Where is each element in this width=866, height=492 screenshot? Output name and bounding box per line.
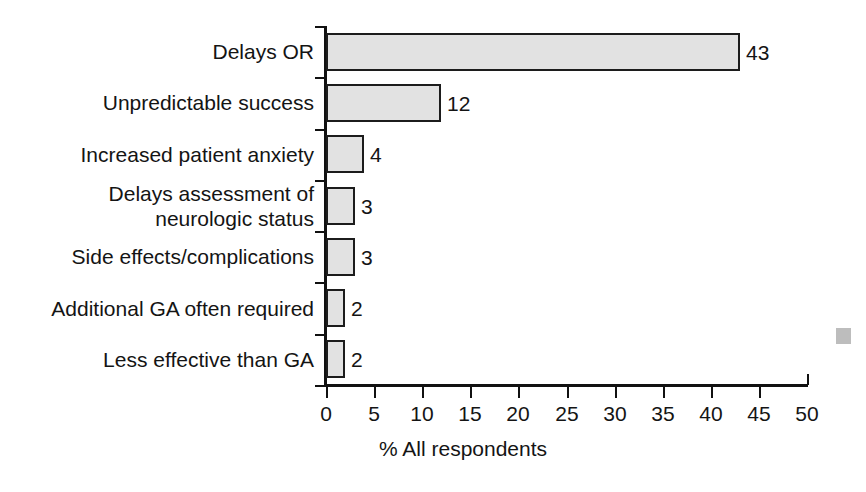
- category-label-line: Delays OR: [212, 39, 314, 64]
- y-axis-tick: [315, 26, 324, 28]
- y-axis-tick: [315, 129, 324, 131]
- plot-area: Delays ORUnpredictable successIncreased …: [0, 0, 866, 492]
- bar-value-label: 2: [351, 298, 363, 319]
- category-label: Unpredictable success: [103, 90, 314, 115]
- x-axis-line: [324, 384, 808, 387]
- x-axis-tick: [470, 387, 472, 398]
- x-axis-tick-label: 50: [787, 403, 827, 424]
- bar-value-label: 2: [351, 349, 363, 370]
- x-axis-tick: [567, 387, 569, 398]
- bar: [326, 238, 355, 276]
- x-axis-tick: [711, 387, 713, 398]
- x-axis-title: % All respondents: [0, 437, 866, 461]
- bar: [326, 84, 441, 122]
- x-axis-tick-label: 25: [547, 403, 587, 424]
- x-axis-tick-label: 35: [643, 403, 683, 424]
- x-axis-tick-label: 15: [450, 403, 490, 424]
- bar-value-label: 12: [447, 93, 470, 114]
- y-axis-tick: [315, 180, 324, 182]
- x-axis-tick: [422, 387, 424, 398]
- category-label-line: Delays assessment of: [109, 181, 314, 206]
- bar-value-label: 4: [370, 144, 382, 165]
- y-axis-tick: [315, 77, 324, 79]
- y-axis-tick: [315, 385, 324, 387]
- x-axis-tick: [518, 387, 520, 398]
- x-axis-tick-label: 0: [306, 403, 346, 424]
- x-axis-tick-label: 30: [595, 403, 635, 424]
- category-label: Additional GA often required: [51, 296, 314, 321]
- category-label-line: Less effective than GA: [103, 347, 314, 372]
- bar-chart: Delays ORUnpredictable successIncreased …: [0, 0, 866, 492]
- bar-value-label: 3: [361, 247, 373, 268]
- bar: [326, 33, 740, 71]
- x-axis-tick-label: 10: [402, 403, 442, 424]
- bar: [326, 187, 355, 225]
- y-axis-tick: [315, 334, 324, 336]
- x-axis-tick: [807, 374, 809, 385]
- x-axis-tick-label: 20: [498, 403, 538, 424]
- category-label-line: Additional GA often required: [51, 296, 314, 321]
- x-axis-tick-label: 45: [739, 403, 779, 424]
- x-axis-tick: [615, 387, 617, 398]
- x-axis-tick: [326, 387, 328, 398]
- x-axis-tick-label: 5: [354, 403, 394, 424]
- bar-value-label: 3: [361, 196, 373, 217]
- category-label: Side effects/complications: [72, 244, 314, 269]
- category-label: Delays assessment ofneurologic status: [109, 181, 314, 231]
- x-axis-tick: [663, 387, 665, 398]
- x-axis-tick: [759, 387, 761, 398]
- category-label: Delays OR: [212, 39, 314, 64]
- category-label-line: Increased patient anxiety: [81, 142, 314, 167]
- category-label: Increased patient anxiety: [81, 142, 314, 167]
- bar: [326, 340, 345, 378]
- y-axis-tick: [315, 282, 324, 284]
- bar: [326, 289, 345, 327]
- category-label-line: Side effects/complications: [72, 244, 314, 269]
- x-axis-tick: [374, 387, 376, 398]
- x-axis-title-text: % All respondents: [379, 437, 547, 461]
- category-label: Less effective than GA: [103, 347, 314, 372]
- category-label-line: Unpredictable success: [103, 90, 314, 115]
- bar: [326, 135, 364, 173]
- x-axis-tick-label: 40: [691, 403, 731, 424]
- category-label-line: neurologic status: [109, 206, 314, 231]
- bar-value-label: 43: [746, 42, 769, 63]
- scan-artifact-mark: [836, 328, 851, 344]
- y-axis-tick: [315, 231, 324, 233]
